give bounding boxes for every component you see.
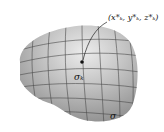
sample-point-marker [80,60,84,64]
surface-label: σ [110,112,116,121]
patch-label: σₖ [74,73,83,82]
sample-point-label: (x*ₖ, y*ₖ, z*ₖ) [108,14,158,22]
